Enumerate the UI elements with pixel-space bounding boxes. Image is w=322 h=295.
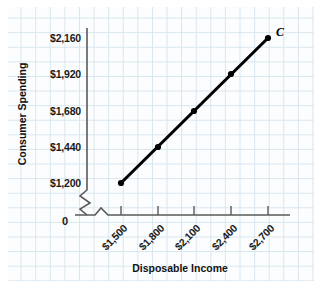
- data-point: [155, 144, 161, 150]
- data-point: [118, 180, 124, 186]
- data-point: [228, 71, 234, 77]
- consumption-function-chart: $2,160 $1,920 $1,680 $1,440 $1,200 $1,50…: [0, 0, 322, 295]
- data-point: [191, 108, 197, 114]
- curve-label-c: C: [276, 25, 284, 40]
- y-tick-label-1440: $1,440: [24, 141, 81, 153]
- y-axis-line: [80, 28, 90, 215]
- y-tick-label-1200: $1,200: [24, 177, 81, 189]
- x-axis-line: [75, 208, 290, 215]
- y-tick-label-1920: $1,920: [24, 68, 81, 80]
- x-axis-title: Disposable Income: [95, 262, 265, 274]
- y-axis-title: Consumer Spending: [16, 54, 28, 174]
- y-tick-label-2160: $2,160: [24, 32, 81, 44]
- y-tick-label-1680: $1,680: [24, 105, 81, 117]
- data-point: [265, 35, 271, 41]
- origin-label: 0: [62, 215, 68, 227]
